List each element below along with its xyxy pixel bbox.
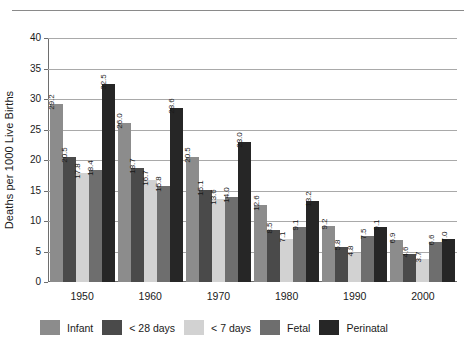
bar[interactable]: 17.8 <box>76 173 89 282</box>
bar[interactable]: 14.0 <box>225 197 238 282</box>
bar[interactable]: 16.7 <box>144 180 157 282</box>
bar-value-label: 14.0 <box>223 187 231 203</box>
bar-slot: 13.2 <box>306 38 319 282</box>
bar[interactable]: 3.7 <box>416 259 429 282</box>
bar[interactable]: 23.0 <box>238 142 251 282</box>
bar-value-label: 8.5 <box>266 223 274 234</box>
bar[interactable]: 15.8 <box>157 186 170 282</box>
bar-value-label: 7.5 <box>360 229 368 240</box>
bar-value-label: 15.1 <box>197 180 205 196</box>
bar[interactable]: 13.6 <box>212 199 225 282</box>
chart-figure: Deaths per 1000 Live Births 051015202530… <box>0 0 476 355</box>
bar-value-label: 9.1 <box>292 219 300 230</box>
y-tick-label: 40 <box>30 33 41 43</box>
bar-group: 12.68.57.19.113.21980 <box>253 38 321 282</box>
legend-swatch <box>319 320 339 335</box>
legend-swatch <box>260 320 280 335</box>
bar-slot: 15.1 <box>199 38 212 282</box>
bar-value-label: 29.2 <box>48 94 56 110</box>
bar-value-label: 20.5 <box>61 147 69 163</box>
bar[interactable]: 7.5 <box>361 236 374 282</box>
bar-slot: 32.5 <box>102 38 115 282</box>
bar-value-label: 9.2 <box>321 218 329 229</box>
bar[interactable]: 26.0 <box>118 123 131 282</box>
bar-value-label: 16.7 <box>142 170 150 186</box>
bar-value-label: 5.8 <box>334 239 342 250</box>
bar[interactable]: 20.5 <box>186 157 199 282</box>
bar[interactable]: 12.6 <box>254 205 267 282</box>
bar-group: 9.25.84.87.59.11990 <box>321 38 389 282</box>
bar-value-label: 28.6 <box>168 98 176 114</box>
bar-value-label: 26.0 <box>116 114 124 130</box>
bar-value-label: 32.5 <box>100 74 108 90</box>
x-tick-label: 1950 <box>70 290 93 302</box>
bar-slot: 20.5 <box>63 38 76 282</box>
legend-item[interactable]: < 7 days <box>184 320 251 335</box>
bar-value-label: 9.1 <box>373 219 381 230</box>
bar-slot: 8.5 <box>267 38 280 282</box>
bar-groups: 29.220.517.818.432.5195026.018.716.715.8… <box>48 38 457 282</box>
y-tick-label: 20 <box>30 155 41 165</box>
bar-value-label: 13.6 <box>210 189 218 205</box>
x-tick-label: 1990 <box>343 290 366 302</box>
bar-value-label: 6.6 <box>428 234 436 245</box>
legend-item[interactable]: Perinatal <box>319 320 387 335</box>
bar-value-label: 18.7 <box>129 158 137 174</box>
bar-slot: 16.7 <box>144 38 157 282</box>
bar[interactable]: 9.2 <box>322 226 335 282</box>
bar-value-label: 6.9 <box>389 232 397 243</box>
bar[interactable]: 4.8 <box>348 253 361 282</box>
bar-group: 29.220.517.818.432.51950 <box>48 38 116 282</box>
bar[interactable]: 13.2 <box>306 201 319 282</box>
bar-slot: 13.6 <box>212 38 225 282</box>
bar[interactable]: 6.6 <box>429 242 442 282</box>
legend-swatch <box>184 320 204 335</box>
bar-group: 26.018.716.715.828.61960 <box>116 38 184 282</box>
y-axis-title: Deaths per 1000 Live Births <box>2 38 16 282</box>
bar-slot: 23.0 <box>238 38 251 282</box>
bar-value-label: 23.0 <box>236 132 244 148</box>
bar-value-label: 12.6 <box>253 195 261 211</box>
bar[interactable]: 18.4 <box>89 170 102 282</box>
y-tick-label: 5 <box>35 247 41 257</box>
bar-group: 20.515.113.614.023.01970 <box>184 38 252 282</box>
y-tick-label: 35 <box>30 64 41 74</box>
y-tick-label: 15 <box>30 186 41 196</box>
bar-slot: 9.1 <box>293 38 306 282</box>
legend-label: < 7 days <box>211 322 251 334</box>
legend-label: < 28 days <box>129 322 175 334</box>
y-axis-title-text: Deaths per 1000 Live Births <box>3 91 15 229</box>
y-tick-mark <box>44 282 48 283</box>
bar[interactable]: 28.6 <box>170 108 183 282</box>
bar-slot: 28.6 <box>170 38 183 282</box>
bar[interactable]: 7.0 <box>442 239 455 282</box>
legend-label: Infant <box>67 322 93 334</box>
bar-slot: 20.5 <box>186 38 199 282</box>
bar-value-label: 18.4 <box>87 160 95 176</box>
bar-value-label: 4.8 <box>347 245 355 256</box>
legend-label: Fetal <box>287 322 310 334</box>
legend-swatch <box>40 320 60 335</box>
plot-area: 0510152025303540 29.220.517.818.432.5195… <box>48 38 457 282</box>
bar[interactable]: 29.2 <box>50 104 63 282</box>
bar-slot: 7.1 <box>280 38 293 282</box>
bar-group: 6.94.63.76.67.02000 <box>389 38 457 282</box>
legend-item[interactable]: Fetal <box>260 320 310 335</box>
bar-slot: 12.6 <box>254 38 267 282</box>
bar-value-label: 17.8 <box>74 164 82 180</box>
bar[interactable]: 7.1 <box>280 239 293 282</box>
bar-slot: 7.0 <box>442 38 455 282</box>
y-tick-label: 10 <box>30 216 41 226</box>
y-tick-label: 0 <box>35 277 41 287</box>
bar[interactable]: 32.5 <box>102 84 115 282</box>
bar[interactable]: 9.1 <box>374 227 387 283</box>
y-tick-label: 30 <box>30 94 41 104</box>
legend-item[interactable]: Infant <box>40 320 93 335</box>
legend-item[interactable]: < 28 days <box>102 320 175 335</box>
x-tick-label: 1980 <box>275 290 298 302</box>
bar-value-label: 15.8 <box>155 176 163 192</box>
bar[interactable]: 9.1 <box>293 227 306 283</box>
bar-slot: 4.6 <box>403 38 416 282</box>
bar-slot: 9.1 <box>374 38 387 282</box>
bar-slot: 7.5 <box>361 38 374 282</box>
